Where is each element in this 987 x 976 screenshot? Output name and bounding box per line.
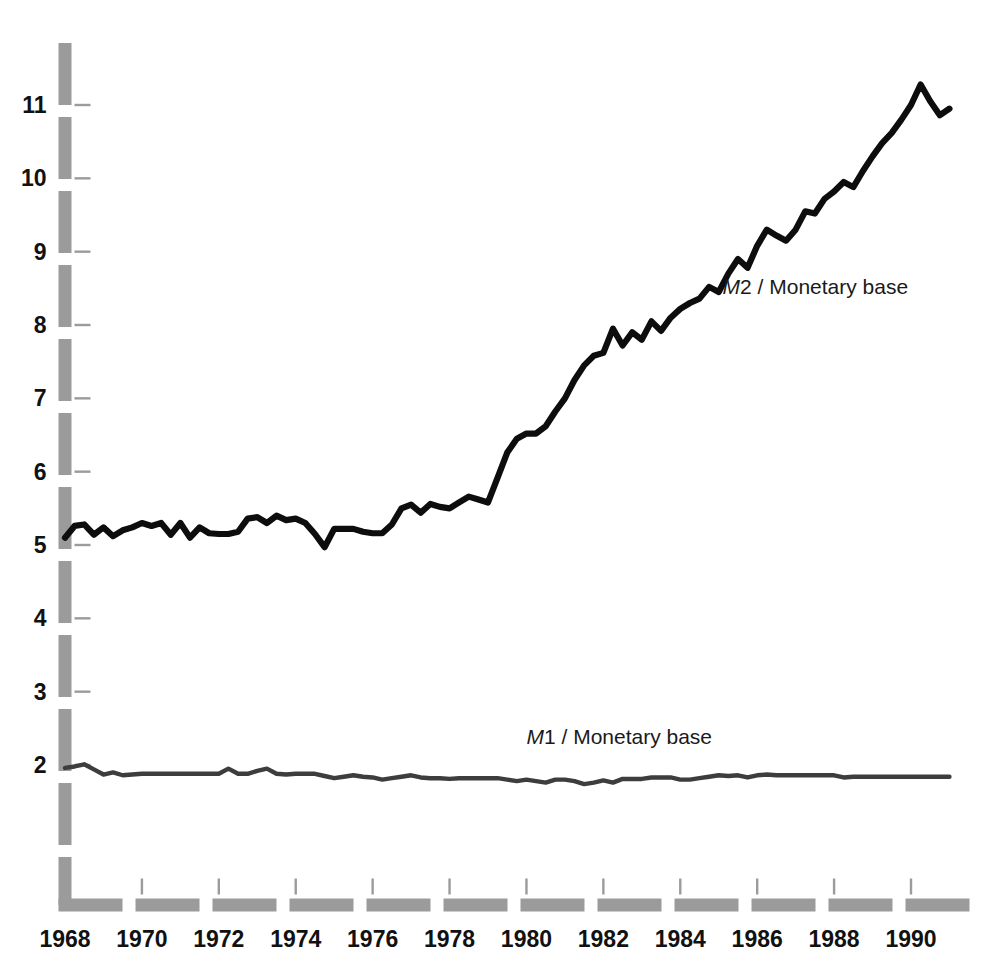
y-axis-tick-label: 10 [21,165,47,191]
m1-series-label: M1 / Monetary base [526,725,712,748]
y-axis-tick-label: 3 [34,679,47,705]
y-axis-dash-segment [59,413,72,475]
y-axis-tick-label: 4 [34,605,47,631]
x-axis-dash-segment [290,899,354,912]
series-line-m1 [65,764,949,784]
y-axis-tick-label: 2 [34,752,47,778]
x-axis-tick-label: 1972 [193,926,244,952]
x-axis [59,879,970,912]
y-axis-dash-segment [59,783,72,845]
x-axis-dash-segment [752,899,816,912]
series-label-symbol: M [526,725,544,748]
x-axis-tick-label: 1990 [885,926,936,952]
x-axis-tick-label: 1986 [732,926,783,952]
series-label-text: 2 / Monetary base [740,275,908,298]
y-axis-tick-label: 9 [34,239,47,265]
y-axis-dash-segment [59,709,72,771]
x-axis-tick-label: 1974 [270,926,321,952]
series-annotations: M2 / Monetary baseM1 / Monetary base [526,275,908,748]
x-axis-dash-segment [367,899,431,912]
series-line-m2 [65,84,949,547]
series-label-text: 1 / Monetary base [544,725,712,748]
line-chart-canvas: 234567891011 196819701972197419761978198… [0,0,987,976]
x-axis-dash-segment [136,899,200,912]
x-axis-dash-segment [906,899,970,912]
x-axis-dash-segment [444,899,508,912]
y-axis [59,43,91,905]
y-axis-tick-label: 5 [34,532,47,558]
data-series-group [65,84,949,784]
x-axis-tick-labels: 1968197019721974197619781980198219841986… [39,926,936,952]
x-axis-tick-label: 1980 [501,926,552,952]
x-axis-dash-segment [675,899,739,912]
y-axis-tick-label: 7 [34,385,47,411]
x-axis-tick-label: 1982 [578,926,629,952]
x-axis-tick-label: 1976 [347,926,398,952]
x-axis-dash-segment [59,899,123,912]
m2-series-label: M2 / Monetary base [723,275,909,298]
x-axis-dash-segment [829,899,893,912]
y-axis-tick-label: 6 [34,459,47,485]
y-axis-dash-segment [59,635,72,697]
x-axis-tick-label: 1970 [116,926,167,952]
y-axis-tick-labels: 234567891011 [21,92,47,778]
chart-figure: 234567891011 196819701972197419761978198… [0,0,987,976]
x-axis-tick-label: 1968 [39,926,90,952]
y-axis-dash-segment [59,265,72,327]
y-axis-dash-segment [59,339,72,401]
x-axis-dash-segment [213,899,277,912]
y-axis-dash-segment [59,43,72,105]
y-axis-dash-segment [59,191,72,253]
y-axis-tick-label: 11 [22,92,47,118]
y-axis-dash-segment [59,561,72,623]
y-axis-dash-segment [59,857,72,905]
x-axis-tick-label: 1984 [655,926,706,952]
y-axis-dash-segment [59,117,72,179]
x-axis-dash-segment [521,899,585,912]
x-axis-dash-segment [598,899,662,912]
series-label-symbol: M [723,275,741,298]
x-axis-tick-label: 1988 [809,926,860,952]
x-axis-tick-label: 1978 [424,926,475,952]
y-axis-tick-label: 8 [34,312,47,338]
